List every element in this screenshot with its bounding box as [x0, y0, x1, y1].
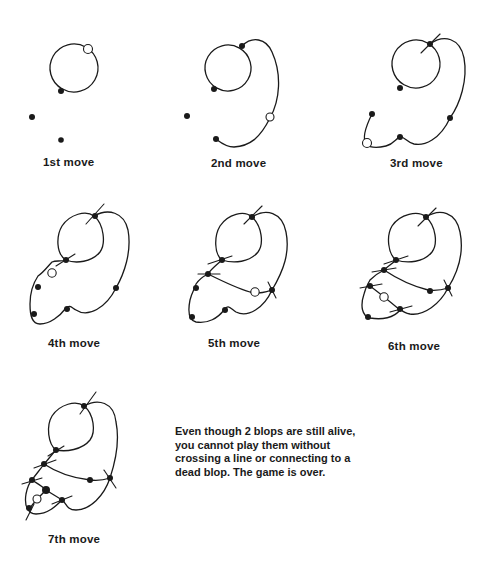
- blop-dot: [365, 314, 371, 320]
- blop-dot: [64, 306, 70, 312]
- dead-blop-dot: [81, 403, 87, 409]
- dead-blop-dot: [367, 283, 373, 289]
- new-blop-circle: [48, 269, 56, 277]
- caption-move-5: 5th move: [208, 337, 260, 349]
- dead-blop-dot: [445, 285, 451, 291]
- panel-move-7: 7th move: [0, 380, 170, 562]
- caption-move-2: 2nd move: [211, 157, 266, 169]
- new-blop-circle: [33, 495, 41, 503]
- blop-dot: [213, 136, 219, 142]
- panel-move-3: 3rd move: [320, 0, 484, 180]
- blop-dot: [189, 314, 195, 320]
- blop-dot: [369, 111, 375, 117]
- blop-dot: [193, 285, 199, 291]
- dead-blop-dot: [29, 477, 35, 483]
- blop-dot: [239, 43, 245, 49]
- new-blop-circle: [84, 45, 93, 54]
- caption-move-7: 7th move: [48, 533, 100, 545]
- caption-move-1: 1st move: [43, 156, 94, 168]
- blop-dot: [87, 477, 93, 483]
- move-6-diagram: [320, 180, 484, 360]
- dead-blop-dot: [249, 214, 255, 220]
- blop-dot: [184, 113, 190, 119]
- dead-blop-dot: [63, 257, 69, 263]
- dead-blop-dot: [269, 287, 275, 293]
- caption-move-6: 6th move: [388, 340, 440, 352]
- new-blop-circle: [363, 139, 372, 148]
- new-blop-circle: [251, 288, 259, 296]
- new-blop-circle: [266, 113, 274, 121]
- panel-move-1: 1st move: [0, 0, 160, 180]
- blop-dot: [29, 114, 35, 120]
- dead-blop-dot: [53, 447, 59, 453]
- blop-dot: [113, 285, 119, 291]
- caption-move-4: 4th move: [48, 337, 100, 349]
- move-1-diagram: [0, 0, 160, 180]
- dead-blop-dot: [381, 267, 387, 273]
- new-blop-circle: [380, 293, 388, 301]
- dead-blop-dot: [423, 214, 429, 220]
- dead-blop-dot: [59, 497, 65, 503]
- panel-move-5: 5th move: [160, 180, 320, 360]
- dead-blop-dot: [397, 306, 403, 312]
- blop-dot: [58, 88, 64, 94]
- blop-dot: [397, 85, 403, 91]
- blop-dot: [427, 288, 433, 294]
- dead-blop-dot: [107, 475, 113, 481]
- move-2-diagram: [160, 0, 320, 180]
- blop-dot: [397, 134, 403, 140]
- move-3-diagram: [320, 0, 484, 180]
- panel-move-6: 6th move: [320, 180, 484, 360]
- blop-dot: [447, 115, 453, 121]
- dead-blop-dot: [205, 271, 211, 277]
- dead-blop-dot: [219, 257, 225, 263]
- blop-dot: [58, 137, 64, 143]
- blop-dot: [35, 284, 41, 290]
- dead-blop-dot: [92, 213, 98, 219]
- dead-blop-dot: [41, 461, 47, 467]
- blop-dot: [211, 86, 217, 92]
- panel-move-2: 2nd move: [160, 0, 320, 180]
- move-4-diagram: [0, 180, 160, 360]
- panel-move-4: 4th move: [0, 180, 160, 360]
- move-5-diagram: [160, 180, 320, 360]
- game-over-note: Even though 2 blops are still alive, you…: [175, 425, 365, 479]
- dead-blop-dot: [393, 257, 399, 263]
- blop-dot: [222, 307, 228, 313]
- dead-blop-dot: [427, 41, 433, 47]
- blop-dot: [31, 311, 37, 317]
- caption-move-3: 3rd move: [390, 157, 443, 169]
- dead-blop-dot: [26, 505, 32, 511]
- dead-blop-dot: [42, 486, 50, 494]
